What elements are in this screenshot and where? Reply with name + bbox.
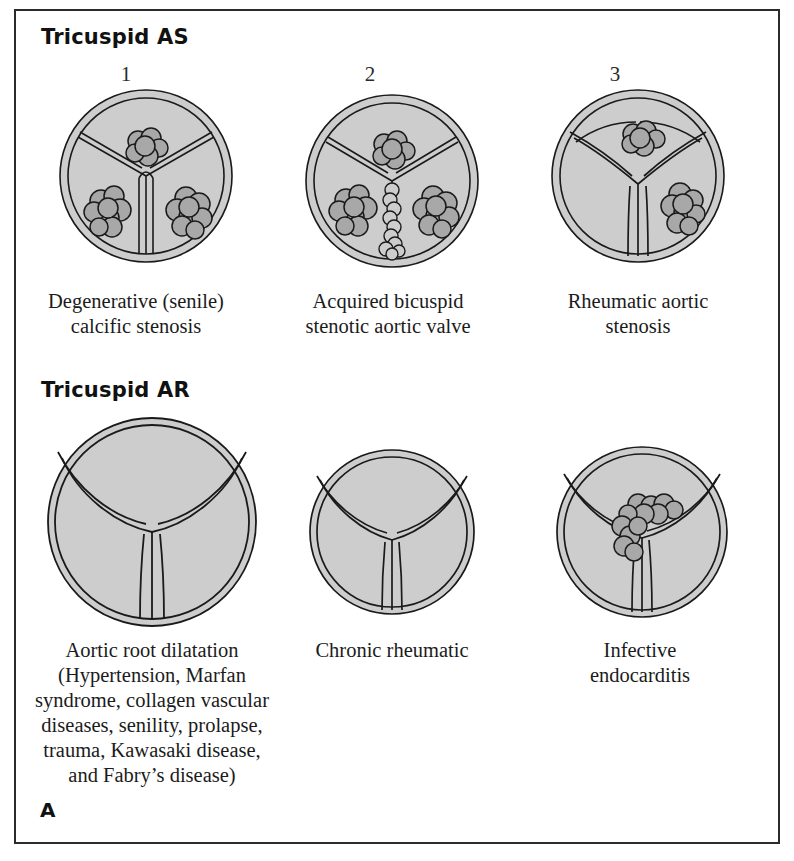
caption-line: Acquired bicuspid xyxy=(272,289,504,314)
caption-line: (Hypertension, Marfan xyxy=(18,663,286,688)
caption-line: stenosis xyxy=(522,314,754,339)
caption-line: Rheumatic aortic xyxy=(522,289,754,314)
caption-degenerative: Degenerative (senile) calcific stenosis xyxy=(22,289,250,339)
valve-diagram-degenerative-calcific xyxy=(56,86,236,266)
caption-infective-endocarditis: Infective endocarditis xyxy=(524,638,756,688)
valve-diagram-rheumatic-stenosis xyxy=(548,86,728,266)
caption-line: Degenerative (senile) xyxy=(22,289,250,314)
caption-line: stenotic aortic valve xyxy=(272,314,504,339)
caption-line: endocarditis xyxy=(524,663,756,688)
valve-diagram-chronic-rheumatic xyxy=(306,446,478,618)
caption-line: syndrome, collagen vascular xyxy=(18,688,286,713)
caption-line: Infective xyxy=(524,638,756,663)
panel-label: A xyxy=(40,798,55,822)
caption-line: Chronic rheumatic xyxy=(276,638,508,663)
caption-line: and Fabry’s disease) xyxy=(18,763,286,788)
section-title-as: Tricuspid AS xyxy=(41,25,189,49)
caption-aortic-root-dilatation: Aortic root dilatation (Hypertension, Ma… xyxy=(18,638,286,788)
caption-rheumatic: Rheumatic aortic stenosis xyxy=(522,289,754,339)
caption-acquired-bicuspid: Acquired bicuspid stenotic aortic valve xyxy=(272,289,504,339)
figure-panel: Tricuspid AS 1 2 3 xyxy=(0,0,794,861)
valve-diagram-acquired-bicuspid xyxy=(302,86,482,276)
figure-number-2: 2 xyxy=(340,62,400,87)
caption-chronic-rheumatic: Chronic rheumatic xyxy=(276,638,508,663)
caption-line: diseases, senility, prolapse, xyxy=(18,713,286,738)
section-title-ar: Tricuspid AR xyxy=(41,378,190,402)
caption-line: Aortic root dilatation xyxy=(18,638,286,663)
figure-number-1: 1 xyxy=(96,62,156,87)
caption-line: calcific stenosis xyxy=(22,314,250,339)
valve-diagram-infective-endocarditis xyxy=(552,442,732,622)
caption-line: trauma, Kawasaki disease, xyxy=(18,738,286,763)
figure-number-3: 3 xyxy=(585,62,645,87)
valve-diagram-aortic-root-dilatation xyxy=(44,414,260,630)
